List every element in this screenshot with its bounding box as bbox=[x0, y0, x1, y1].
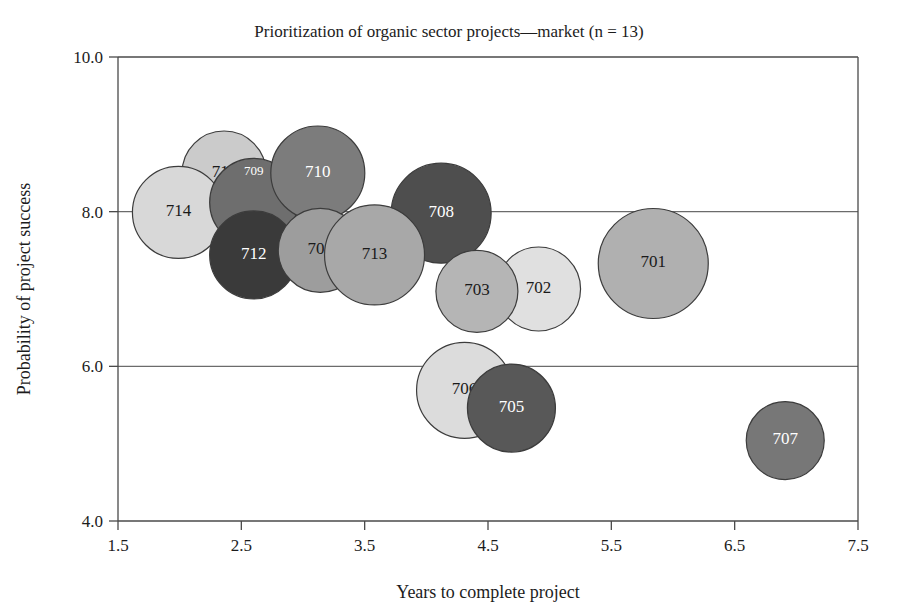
bubble-713[interactable]: 713 bbox=[325, 205, 425, 305]
bubble-label-714: 714 bbox=[166, 201, 192, 220]
x-tick-label-3.5: 3.5 bbox=[354, 536, 375, 555]
y-tick-label-6.0: 6.0 bbox=[82, 357, 103, 376]
bubble-label-703: 703 bbox=[464, 280, 490, 299]
x-axis-title: Years to complete project bbox=[396, 582, 580, 602]
x-tick-label-4.5: 4.5 bbox=[477, 536, 498, 555]
bubble-label-710: 710 bbox=[305, 162, 331, 181]
bubble-703[interactable]: 703 bbox=[436, 250, 518, 332]
chart-canvas: Prioritization of organic sector project… bbox=[0, 0, 899, 616]
bubble-710[interactable]: 710 bbox=[271, 126, 365, 220]
bubble-label-702: 702 bbox=[526, 278, 552, 297]
x-tick-label-2.5: 2.5 bbox=[231, 536, 252, 555]
bubble-label-713: 713 bbox=[362, 244, 388, 263]
y-axis-tick-labels: 4.06.08.010.0 bbox=[73, 48, 103, 531]
y-tick-label-8.0: 8.0 bbox=[82, 203, 103, 222]
bubble-705[interactable]: 705 bbox=[467, 364, 555, 452]
bubble-label-701: 701 bbox=[641, 252, 667, 271]
y-tick-label-4.0: 4.0 bbox=[82, 512, 103, 531]
chart-title: Prioritization of organic sector project… bbox=[254, 22, 643, 41]
bubble-chart-figure: Prioritization of organic sector project… bbox=[0, 0, 899, 616]
bubble-707[interactable]: 707 bbox=[746, 402, 824, 480]
bubble-label-707: 707 bbox=[772, 429, 798, 448]
x-tick-label-7.5: 7.5 bbox=[847, 536, 868, 555]
y-tick-label-10.0: 10.0 bbox=[73, 48, 103, 67]
y-axis-title: Probability of project success bbox=[14, 183, 34, 395]
bubble-label-712: 712 bbox=[241, 244, 267, 263]
bubble-label-705: 705 bbox=[499, 397, 525, 416]
bubble-label-708: 708 bbox=[428, 202, 454, 221]
bubble-701[interactable]: 701 bbox=[598, 208, 708, 318]
x-tick-label-5.5: 5.5 bbox=[601, 536, 622, 555]
x-tick-label-6.5: 6.5 bbox=[724, 536, 745, 555]
x-axis-tick-labels: 1.52.53.54.55.56.57.5 bbox=[107, 536, 868, 555]
bubble-label-709: 709 bbox=[244, 163, 264, 178]
x-tick-label-1.5: 1.5 bbox=[107, 536, 128, 555]
bubble-series: 7117147097107127047087137027037067057017… bbox=[132, 126, 824, 480]
